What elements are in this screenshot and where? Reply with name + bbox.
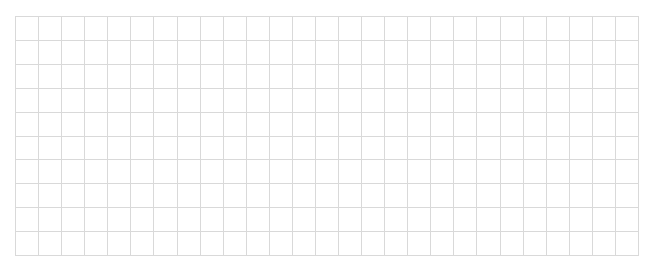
grid-lines bbox=[15, 16, 639, 256]
grid-canvas bbox=[15, 16, 639, 256]
